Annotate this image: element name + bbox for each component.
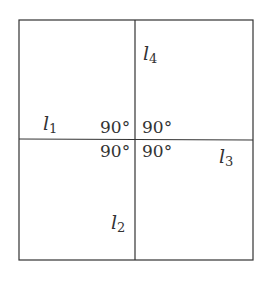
angle-bottom-right: 90° (142, 141, 172, 161)
angle-top-right: 90° (142, 117, 172, 137)
angle-top-left: 90° (100, 117, 130, 137)
horizontal-line (19, 139, 253, 140)
label-l3: l3 (219, 145, 233, 169)
perpendicular-lines-diagram: l1 l4 l3 l2 90° 90° 90° 90° (0, 0, 259, 282)
label-l1: l1 (43, 112, 57, 136)
label-l4: l4 (143, 42, 157, 66)
label-l2: l2 (111, 211, 125, 235)
angle-bottom-left: 90° (100, 141, 130, 161)
